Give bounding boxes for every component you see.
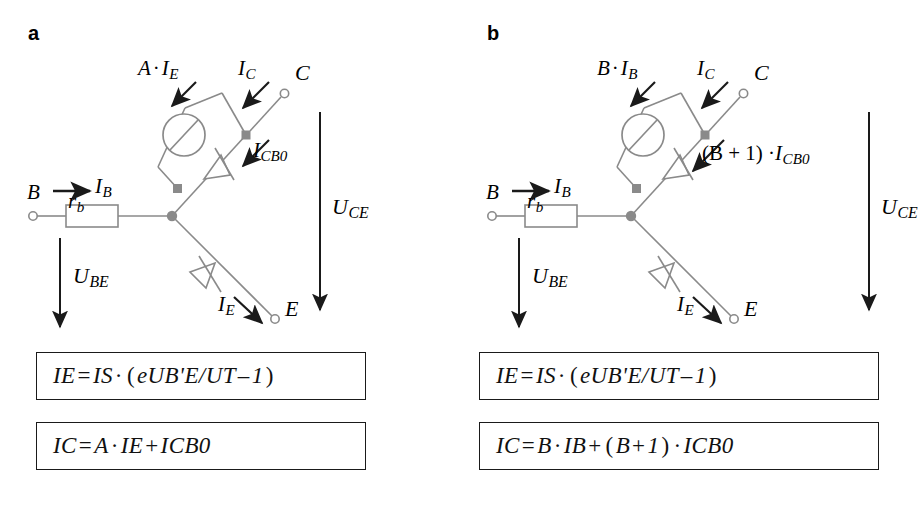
f2-t3-sub-b: CB0	[692, 433, 734, 458]
ic-label-main-a: I	[238, 56, 245, 80]
f1-slash-a: /	[199, 363, 206, 388]
source-loop-wire-4-a	[222, 93, 246, 135]
collector-terminal-label-b: C	[754, 62, 769, 84]
icb0-label-a: ICB0	[253, 140, 287, 164]
emitter-terminal-label-a: E	[285, 298, 298, 320]
rb-label-main-b: r	[527, 189, 535, 213]
f2-one-b: 1	[647, 433, 659, 458]
f2-t1-a: A	[94, 433, 108, 458]
ube-label-a: UBE	[73, 265, 109, 290]
emitter-terminal-node-a	[271, 315, 279, 323]
uce-label-a: UCE	[332, 196, 369, 221]
f2-plus2-b: +	[630, 433, 647, 458]
f1-is-b: I	[536, 363, 544, 388]
f1-lhs-sub-a: E	[61, 363, 75, 388]
source-loop-wire-4-b	[681, 93, 705, 135]
ube-label-main-a: U	[73, 263, 89, 288]
source-current-sub-a: E	[169, 66, 179, 82]
ic-arrow-b	[702, 82, 728, 108]
f1-one-a: 1	[252, 363, 264, 388]
uce-label-main-a: U	[332, 194, 348, 219]
ube-label-main-b: U	[532, 263, 548, 288]
f1-lhs-sub-b: E	[504, 363, 518, 388]
f2-t2-b: I	[564, 433, 572, 458]
f1-slash-b: /	[642, 363, 649, 388]
emitter-terminal-node-b	[730, 315, 738, 323]
f1-one-b: 1	[695, 363, 707, 388]
f1-unum-a: U	[148, 363, 165, 388]
f2-dot2-b: ·	[671, 433, 683, 458]
formula-ic-text-b: IC=B·IB+(B+1)·ICB0	[480, 433, 734, 459]
f2-t2-sub-a: E	[129, 433, 143, 458]
f1-eq-a: =	[76, 363, 93, 388]
f1-dot-b: ·	[556, 363, 568, 388]
ie-label-sub-b: E	[684, 302, 694, 318]
f1-e-a: e	[137, 363, 148, 388]
ie-label-sub-a: E	[225, 302, 235, 318]
icb0-label-sub-b: CB0	[782, 151, 809, 167]
source-current-mul-a: ·	[151, 56, 162, 80]
f1-is-sub-b: S	[544, 363, 556, 388]
uce-label-b: UCE	[881, 196, 918, 221]
f2-dot-b: ·	[552, 433, 564, 458]
f2-t2-sub-b: B	[572, 433, 586, 458]
source-current-arrow-a	[172, 82, 196, 106]
ib-label-main-a: I	[95, 174, 102, 198]
f2-t1-b: B	[537, 433, 551, 458]
collector-lead-b	[709, 97, 740, 131]
f2-pclose-b: )	[659, 433, 671, 458]
rb-label-sub-a: b	[76, 199, 84, 215]
icb0-label-b: (B + 1) ·ICB0	[702, 143, 809, 167]
f2-eq-b: =	[520, 433, 537, 458]
base-terminal-node-a	[29, 212, 37, 220]
uce-label-main-b: U	[881, 194, 897, 219]
source-current-sub-b: B	[628, 66, 638, 82]
ube-label-b: UBE	[532, 265, 568, 290]
rb-label-a: rb	[68, 191, 84, 215]
ie-label-main-b: I	[677, 292, 684, 316]
f1-lhs-b: I	[496, 363, 504, 388]
formula-ic-text-a: IC=A·IE+ICB0	[37, 433, 211, 459]
ib-label-b: IB	[554, 176, 571, 200]
f1-uden-sub-b: T	[666, 363, 679, 388]
uce-label-sub-b: CE	[897, 204, 918, 221]
f1-open-a: (	[125, 363, 137, 388]
ube-label-sub-a: BE	[89, 273, 109, 290]
collector-lead-a	[250, 97, 281, 131]
ib-label-a: IB	[95, 176, 112, 200]
ib-label-sub-b: B	[561, 184, 571, 200]
ic-label-sub-b: C	[704, 66, 715, 82]
ic-label-sub-a: C	[245, 66, 256, 82]
source-current-label-a: A·IE	[138, 58, 179, 82]
base-terminal-node-b	[488, 212, 496, 220]
f2-lhs-a: I	[53, 433, 61, 458]
f2-dot-a: ·	[109, 433, 121, 458]
collector-terminal-node-b	[739, 89, 747, 97]
ie-label-main-a: I	[218, 292, 225, 316]
f1-dot-a: ·	[113, 363, 125, 388]
f2-beta-b: B	[616, 433, 630, 458]
f2-popen-b: (	[604, 433, 616, 458]
f1-minus-a: –	[236, 363, 252, 388]
f1-lhs-a: I	[53, 363, 61, 388]
icb0-label-sub-a: CB0	[260, 148, 287, 164]
formula-box-ic-b: IC=B·IB+(B+1)·ICB0	[479, 422, 879, 470]
f2-lhs-sub-a: C	[61, 433, 77, 458]
source-current-var-b: I	[621, 56, 628, 80]
f1-is-sub-a: S	[101, 363, 113, 388]
formula-box-ic-a: IC=A·IE+ICB0	[36, 422, 366, 470]
base-terminal-label-b: B	[486, 182, 499, 203]
collector-terminal-node-a	[280, 89, 288, 97]
formula-ie-text-a: IE=IS·(eUB'E/UT–1)	[37, 363, 276, 389]
base-terminal-label-a: B	[27, 182, 40, 203]
f2-plus-a: +	[143, 433, 160, 458]
circuit-figure: a	[0, 0, 918, 516]
ie-label-a: IE	[218, 294, 235, 318]
f2-t2-a: I	[121, 433, 129, 458]
source-loop-wire-3-a	[185, 93, 222, 108]
ie-label-b: IE	[677, 294, 694, 318]
source-loop-wire-1-b	[617, 167, 637, 189]
f1-close-b: )	[707, 363, 719, 388]
f1-e-b: e	[580, 363, 591, 388]
formula-box-ie-b: IE=IS·(eUB'E/UT–1)	[479, 352, 879, 400]
